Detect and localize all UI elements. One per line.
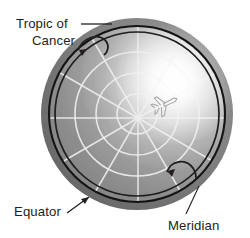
label-tropic-of-cancer-line2: Cancer xyxy=(32,33,76,48)
globe-diagram: Tropic of Cancer Equator Meridian xyxy=(0,0,250,238)
equator-arrow xyxy=(67,197,89,213)
label-meridian: Meridian xyxy=(168,218,219,233)
label-tropic-of-cancer-line1: Tropic of xyxy=(16,16,68,31)
label-equator: Equator xyxy=(14,204,61,219)
figure-canvas: Tropic of Cancer Equator Meridian xyxy=(0,0,250,238)
